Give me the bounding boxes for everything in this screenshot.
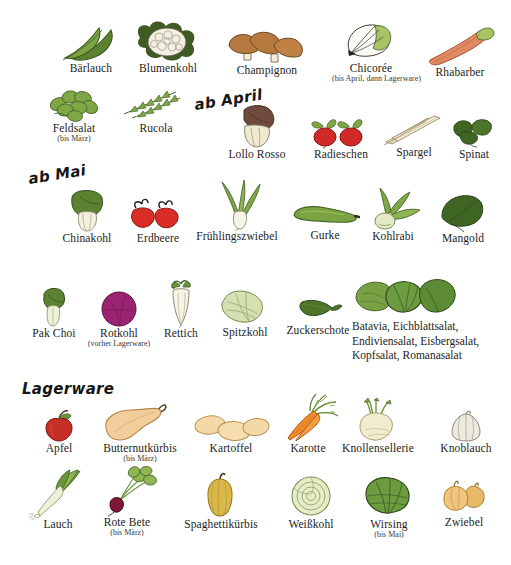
produce-item-butternutkuerbis: Butternutkürbis (bis März) <box>92 402 188 464</box>
produce-item-champignon: Champignon <box>224 26 310 77</box>
produce-item-knollensellerie: Knollensellerie <box>326 398 430 455</box>
produce-item-baerlauch: Bärlauch <box>55 22 127 75</box>
napa-cabbage-icon <box>50 186 124 232</box>
produce-item-rettich: Rettich <box>150 279 212 340</box>
produce-label: Kohlrabi <box>358 230 428 243</box>
rocket-icon <box>118 88 194 122</box>
pointed-cabbage-icon <box>210 286 280 326</box>
produce-sublabel: (bis März) <box>90 529 164 538</box>
produce-item-kartoffel: Kartoffel <box>190 412 272 455</box>
produce-label: Zwiebel <box>428 516 500 529</box>
produce-item-mangold: Mangold <box>428 194 498 245</box>
produce-label: Rettich <box>150 327 212 340</box>
produce-label: Rhabarber <box>420 66 500 79</box>
produce-item-rote-bete: Rote Bete (bis März) <box>90 466 164 538</box>
red-cabbage-icon <box>86 283 152 327</box>
produce-item-erdbeere: Erdbeere <box>124 198 192 245</box>
garlic-icon <box>428 408 504 442</box>
produce-item-feldsalat: Feldsalat (bis März) <box>38 86 110 144</box>
produce-item-apfel: Apfel <box>28 410 90 455</box>
produce-sublabel: (bis März) <box>92 455 188 464</box>
produce-sublabel: (bis April, dann Lagerware) <box>332 75 410 84</box>
produce-item-spaghettikuerbis: Spaghettikürbis <box>172 472 270 531</box>
lollo-rosso-icon <box>214 102 300 148</box>
produce-item-rotkohl: Rotkohl (vorher Lagerware) <box>86 283 152 349</box>
butternut-squash-icon <box>92 402 188 442</box>
produce-label: Lauch <box>26 518 90 531</box>
strawberries-icon <box>124 198 192 232</box>
produce-item-spinat: Spinat <box>444 118 504 161</box>
produce-label: Wirsing <box>352 518 426 531</box>
produce-label: Kartoffel <box>190 442 272 455</box>
produce-item-weisskohl: Weißkohl <box>272 474 350 531</box>
spaghetti-squash-icon <box>172 472 270 518</box>
produce-label: Lollo Rosso <box>214 148 300 161</box>
savoy-cabbage-icon <box>352 474 426 518</box>
produce-label: Butternutkürbis <box>92 442 188 455</box>
produce-item-wirsing: Wirsing (bis Mai) <box>352 474 426 540</box>
produce-sublabel: (bis Mai) <box>352 531 426 540</box>
produce-sublabel: (vorher Lagerware) <box>86 340 152 349</box>
seasonal-produce-poster: ab April ab Mai Lagerware Bärlauch <box>0 0 511 565</box>
produce-label: Spargel <box>382 146 446 159</box>
produce-label: Chinakohl <box>50 232 124 245</box>
section-heading-lagerware: Lagerware <box>22 380 114 398</box>
produce-label: Blumenkohl <box>128 62 208 75</box>
produce-label: Rotkohl <box>86 327 152 340</box>
section-heading-ab-mai: ab Mai <box>27 161 87 188</box>
produce-label: Frühlingszwiebel <box>188 230 286 243</box>
white-cabbage-icon <box>272 474 350 518</box>
produce-item-fruehlingszwiebel: Frühlingszwiebel <box>188 180 286 243</box>
produce-label: Erdbeere <box>124 232 192 245</box>
produce-label: Apfel <box>28 442 90 455</box>
produce-label: Radieschen <box>303 148 379 161</box>
daikon-icon <box>150 279 212 327</box>
produce-label: Gurke <box>288 229 362 242</box>
produce-label: Mangold <box>428 232 498 245</box>
kohlrabi-icon <box>358 188 428 230</box>
chicory-icon <box>332 20 410 62</box>
produce-label: Knollensellerie <box>326 442 430 455</box>
produce-item-pak-choi: Pak Choi <box>18 283 90 340</box>
produce-label: Spitzkohl <box>210 326 280 339</box>
cauliflower-icon <box>128 18 208 62</box>
apple-icon <box>28 410 90 442</box>
produce-item-zuckerschote: Zuckerschote <box>276 294 360 337</box>
snow-pea-icon <box>276 294 360 324</box>
produce-item-chicoree: Chicorée (bis April, dann Lagerware) <box>332 20 410 84</box>
onions-icon <box>428 478 500 516</box>
produce-item-rucola: Rucola <box>118 88 194 135</box>
asparagus-icon <box>382 116 446 146</box>
produce-label: Bärlauch <box>55 62 127 75</box>
produce-group-label: Batavia, Eichblattsalat, Endiviensalat, … <box>352 319 502 363</box>
produce-label: Rote Bete <box>90 516 164 529</box>
produce-label: Zuckerschote <box>276 324 360 337</box>
beetroot-icon <box>90 466 164 516</box>
produce-item-lollo-rosso: Lollo Rosso <box>214 102 300 161</box>
produce-item-zwiebel: Zwiebel <box>428 478 500 529</box>
produce-sublabel: (bis März) <box>38 135 110 144</box>
produce-item-spargel: Spargel <box>382 116 446 159</box>
spinach-icon <box>444 118 504 148</box>
produce-label: Spinat <box>444 148 504 161</box>
mushrooms-icon <box>224 26 310 64</box>
produce-label: Champignon <box>224 64 310 77</box>
pak-choi-icon <box>18 283 90 327</box>
produce-label: Pak Choi <box>18 327 90 340</box>
produce-label: Weißkohl <box>272 518 350 531</box>
produce-item-gurke: Gurke <box>288 201 362 242</box>
produce-label: Spaghettikürbis <box>172 518 270 531</box>
produce-item-blumenkohl: Blumenkohl <box>128 18 208 75</box>
ramsons-leaves-icon <box>55 22 127 62</box>
produce-label: Knoblauch <box>428 442 504 455</box>
produce-label: Chicorée <box>332 62 410 75</box>
chard-icon <box>428 194 498 232</box>
leek-icon <box>26 470 90 518</box>
produce-label: Rucola <box>118 122 194 135</box>
radishes-icon <box>303 118 379 148</box>
spring-onion-icon <box>188 180 286 230</box>
produce-item-kohlrabi: Kohlrabi <box>358 188 428 243</box>
lambs-lettuce-icon <box>38 86 110 122</box>
produce-label: Feldsalat <box>38 122 110 135</box>
rhubarb-icon <box>420 24 500 66</box>
